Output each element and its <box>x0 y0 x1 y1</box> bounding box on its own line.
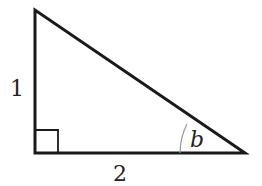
side-label-horizontal: 2 <box>113 161 127 186</box>
angle-label: b <box>190 127 204 152</box>
triangle <box>35 10 245 153</box>
triangle-diagram: 1 2 b <box>0 0 262 186</box>
side-label-vertical: 1 <box>10 76 24 101</box>
right-angle-marker <box>35 130 58 153</box>
angle-arc <box>180 124 187 153</box>
